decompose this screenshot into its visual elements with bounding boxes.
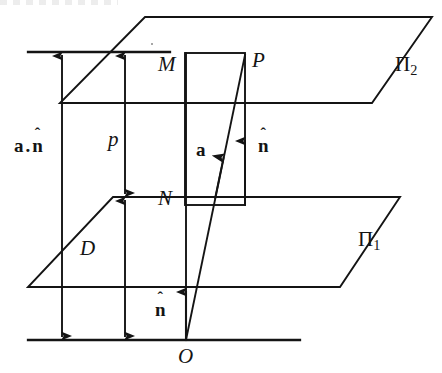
label-nhat-bottom: ˆn <box>155 300 166 319</box>
label-plane-pi2-symbol: Π <box>395 52 410 76</box>
label-plane-pi1: Π1 <box>358 229 380 252</box>
label-a-dot-nhat: a.ˆn <box>14 136 43 155</box>
label-distance-d: D <box>80 238 95 259</box>
diagram-canvas <box>0 0 442 373</box>
label-a-dot-nhat-n: ˆn <box>32 136 43 155</box>
label-a-dot-nhat-a: a <box>14 135 24 156</box>
label-point-p: P <box>252 50 265 71</box>
label-origin-o: O <box>178 346 193 367</box>
hat-accent-icon: ˆ <box>261 126 266 142</box>
rectangle-mnp <box>185 53 245 205</box>
label-distance-p: p <box>108 129 119 150</box>
label-point-m: M <box>158 54 176 75</box>
hat-accent-icon: ˆ <box>158 290 163 306</box>
label-plane-pi1-subscript: 1 <box>373 237 380 253</box>
label-plane-pi1-symbol: Π <box>358 227 373 251</box>
vector-a-arrowhead <box>215 158 223 198</box>
label-point-n: N <box>158 188 172 209</box>
label-nhat-middle: ˆn <box>258 136 269 155</box>
label-a-dot-nhat-dot: . <box>24 136 33 155</box>
label-nhat-middle-wrap: ˆn <box>258 136 269 155</box>
label-plane-pi2: Π2 <box>395 54 417 77</box>
geometry-figure: a.ˆn p D M P N O a ˆn ˆn Π2 Π1 <box>0 0 442 373</box>
label-nhat-bottom-wrap: ˆn <box>155 300 166 319</box>
label-plane-pi2-subscript: 2 <box>410 62 417 78</box>
hat-accent-icon: ˆ <box>35 126 40 142</box>
upper-plane-parallelogram <box>60 17 432 103</box>
label-vector-a: a <box>196 140 206 159</box>
